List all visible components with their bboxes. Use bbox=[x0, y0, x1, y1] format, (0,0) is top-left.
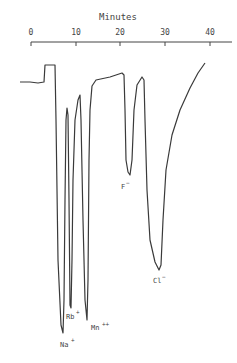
svg-text:+: + bbox=[71, 336, 75, 343]
tick-label-0: 0 bbox=[29, 28, 34, 37]
svg-text:++: ++ bbox=[102, 320, 110, 327]
peak-label-na: Na + bbox=[60, 336, 75, 349]
svg-text:−: − bbox=[162, 273, 166, 280]
peak-label-rb: Rb + bbox=[66, 308, 80, 321]
svg-text:F: F bbox=[121, 183, 125, 191]
x-axis bbox=[31, 42, 232, 46]
tick-label-10: 10 bbox=[71, 28, 81, 37]
peak-label-cl: Cl − bbox=[153, 273, 166, 285]
svg-text:Mn: Mn bbox=[91, 324, 99, 332]
svg-text:+: + bbox=[76, 308, 80, 315]
svg-text:Cl: Cl bbox=[153, 277, 161, 285]
chromatogram-chart: Minutes 0 10 20 30 40 F − Cl − Rb + Mn +… bbox=[0, 0, 237, 363]
svg-text:Na: Na bbox=[60, 341, 68, 349]
svg-text:−: − bbox=[126, 179, 130, 186]
peak-label-mn: Mn ++ bbox=[91, 320, 110, 332]
tick-label-30: 30 bbox=[160, 28, 170, 37]
chromatogram-trace bbox=[20, 63, 205, 333]
peak-label-f: F − bbox=[121, 179, 130, 191]
tick-label-40: 40 bbox=[205, 28, 215, 37]
svg-text:Rb: Rb bbox=[66, 313, 74, 321]
tick-label-20: 20 bbox=[115, 28, 125, 37]
x-axis-title: Minutes bbox=[99, 12, 137, 22]
